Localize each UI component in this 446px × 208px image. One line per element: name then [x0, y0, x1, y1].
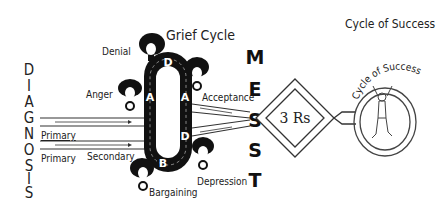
stage-label-denial: Denial	[102, 46, 131, 57]
track-letter-acceptance: A	[181, 91, 190, 104]
stage-label-acceptance: Acceptance	[202, 92, 255, 103]
track-letter-anger: A	[146, 91, 155, 104]
success-circle	[354, 88, 416, 156]
mest-letter: S	[248, 139, 262, 161]
output-arrows	[192, 104, 250, 136]
mest-letter: M	[246, 46, 265, 68]
diagnosis-word: D I A G N O S I S	[24, 61, 35, 202]
arrow-label-primary-1: Primary	[41, 130, 76, 141]
success-arc-label: Cycle of Success	[350, 61, 424, 101]
stage-label-anger: Anger	[86, 89, 113, 100]
face-icon-anger	[118, 79, 142, 110]
stage-label-bargaining: Bargaining	[149, 187, 198, 198]
face-icon-bargaining	[130, 158, 154, 190]
track-letter-bargaining: B	[159, 157, 167, 170]
diagnosis-letter: S	[25, 184, 34, 202]
arrow-label-primary-2: Primary	[41, 153, 76, 164]
arrow-label-secondary: Secondary	[87, 151, 135, 162]
success-title: Cycle of Success	[345, 17, 436, 31]
mest-letter: E	[249, 78, 262, 100]
stage-label-depression: Depression	[197, 176, 247, 187]
track-letter-depression: D	[180, 130, 189, 143]
connector	[334, 112, 356, 124]
three-rs-label: 3 Rs	[279, 110, 310, 126]
face-icon-depression	[192, 137, 214, 169]
grief-cycle-track	[144, 52, 192, 172]
grief-cycle-title: Grief Cycle	[166, 27, 235, 43]
track-letter-denial: D	[163, 56, 172, 69]
mest-letter: T	[249, 169, 262, 191]
diagram-canvas: D I A G N O S I S Primary Primary Second…	[0, 0, 446, 208]
